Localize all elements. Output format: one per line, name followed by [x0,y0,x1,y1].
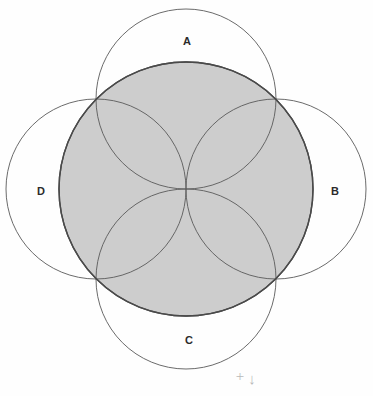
diagram-root: A B C D + ↓ [0,0,373,396]
circle-label-b: B [331,185,339,197]
circle-label-c: C [185,334,193,346]
down-arrow-icon: ↓ [248,371,256,387]
circle-label-a: A [183,35,191,47]
circle-label-d: D [37,185,45,197]
four-circle-rosette-figure: A B C D + ↓ [0,0,373,396]
plus-mark-icon: + [236,368,244,384]
